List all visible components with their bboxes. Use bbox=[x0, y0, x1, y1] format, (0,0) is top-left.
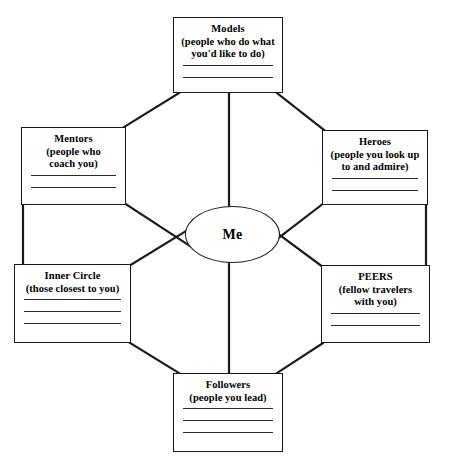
node-heroes-subtitle-line-2: to and admire) bbox=[323, 161, 427, 174]
blank-line[interactable] bbox=[183, 408, 273, 409]
node-peers-blanks[interactable] bbox=[322, 313, 429, 326]
node-followers-subtitle-line-1: (people you lead) bbox=[174, 392, 282, 405]
node-followers-title: Followers bbox=[174, 379, 282, 392]
node-mentors-subtitle-line-1: (people who bbox=[22, 146, 125, 159]
blank-line[interactable] bbox=[183, 65, 273, 66]
node-peers-subtitle-line-2: with you) bbox=[322, 296, 429, 309]
edge-models-mentors bbox=[124, 93, 179, 127]
node-models-title: Models bbox=[174, 23, 282, 36]
node-inner-circle-subtitle-line-1: (those closest to you) bbox=[15, 283, 130, 296]
node-mentors-title: Mentors bbox=[22, 133, 125, 146]
blank-line[interactable] bbox=[183, 77, 273, 78]
edge-inner-circle-followers bbox=[130, 343, 179, 373]
node-followers[interactable]: Followers (people you lead) bbox=[173, 373, 283, 452]
blank-line[interactable] bbox=[331, 313, 420, 314]
blank-line[interactable] bbox=[331, 325, 420, 326]
sphere-of-influence-diagram: Models (people who do what you'd like to… bbox=[0, 0, 449, 470]
node-inner-circle-title: Inner Circle bbox=[15, 270, 130, 283]
blank-line[interactable] bbox=[31, 187, 116, 188]
center-node-label: Me bbox=[222, 227, 242, 243]
node-models[interactable]: Models (people who do what you'd like to… bbox=[173, 17, 283, 93]
spoke-peers-me bbox=[273, 230, 323, 267]
node-heroes-subtitle-line-1: (people you look up bbox=[323, 149, 427, 162]
blank-line[interactable] bbox=[24, 323, 121, 324]
node-mentors-blanks[interactable] bbox=[22, 175, 125, 188]
node-heroes-title: Heroes bbox=[323, 136, 427, 149]
blank-line[interactable] bbox=[24, 299, 121, 300]
node-models-blanks[interactable] bbox=[174, 65, 282, 78]
node-inner-circle-blanks[interactable] bbox=[15, 299, 130, 324]
blank-line[interactable] bbox=[332, 178, 418, 179]
edge-models-heroes bbox=[277, 93, 324, 130]
node-heroes[interactable]: Heroes (people you look up to and admire… bbox=[322, 130, 428, 205]
spoke-inner-circle-me bbox=[129, 228, 191, 266]
blank-line[interactable] bbox=[31, 175, 116, 176]
blank-line[interactable] bbox=[332, 190, 418, 191]
node-peers[interactable]: PEERS (fellow travelers with you) bbox=[321, 265, 430, 343]
edge-peers-followers bbox=[277, 343, 323, 373]
center-node-me[interactable]: Me bbox=[185, 206, 280, 263]
node-mentors-subtitle-line-2: coach you) bbox=[22, 158, 125, 171]
node-heroes-blanks[interactable] bbox=[323, 178, 427, 191]
node-models-subtitle-line-2: you'd like to do) bbox=[174, 48, 282, 61]
node-followers-blanks[interactable] bbox=[174, 408, 282, 433]
node-peers-subtitle-line-1: (fellow travelers bbox=[322, 284, 429, 297]
node-models-subtitle-line-1: (people who do what bbox=[174, 36, 282, 49]
spoke-mentors-me bbox=[124, 203, 190, 246]
node-peers-title: PEERS bbox=[322, 271, 429, 284]
node-mentors[interactable]: Mentors (people who coach you) bbox=[21, 127, 126, 205]
blank-line[interactable] bbox=[24, 311, 121, 312]
node-inner-circle[interactable]: Inner Circle (those closest to you) bbox=[14, 264, 131, 343]
blank-line[interactable] bbox=[183, 432, 273, 433]
blank-line[interactable] bbox=[183, 420, 273, 421]
